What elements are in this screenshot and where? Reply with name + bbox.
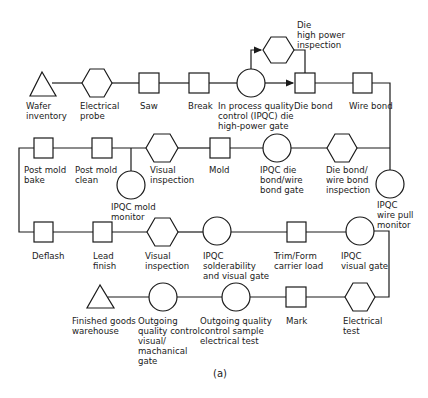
label-die-bond: Die bond xyxy=(294,101,333,111)
label-mark: Mark xyxy=(286,316,307,326)
label-post-mold-bake: Post mold bake xyxy=(24,165,66,185)
label-deflash: Deflash xyxy=(32,251,65,261)
label-lead-finish: Lead finish xyxy=(93,251,116,271)
circle-ipqc-die-gate xyxy=(237,69,265,97)
square-trim-form xyxy=(287,222,306,242)
label-saw: Saw xyxy=(140,101,158,111)
circle-ipqc-mold-monitor xyxy=(117,171,145,199)
hexagon-electrical-test xyxy=(345,283,375,311)
circle-oqc-visual xyxy=(149,283,177,311)
label-trim-form: Trim/Form carrier load xyxy=(274,251,323,271)
square-break xyxy=(189,73,209,93)
square-lead-finish xyxy=(93,222,112,242)
circle-ipqc-die-wire-gate xyxy=(263,134,291,162)
circle-oqc-electrical xyxy=(222,283,250,311)
label-wafer-inventory: Wafer inventory xyxy=(26,101,67,121)
square-saw xyxy=(139,73,159,93)
hexagon-die-high-power xyxy=(263,37,294,63)
square-mark xyxy=(286,287,306,307)
square-deflash xyxy=(34,222,53,242)
label-die-high-power: Die high power inspection xyxy=(297,20,345,50)
label-die-wire-inspection: Die bond/ wire bond inspection xyxy=(326,165,370,195)
square-mold xyxy=(210,138,230,158)
circle-ipqc-wire-pull xyxy=(376,170,404,198)
triangle-wafer-inventory xyxy=(30,72,56,96)
label-visual-inspection-1: Visual inspection xyxy=(150,165,194,185)
square-post-mold-clean xyxy=(92,138,112,158)
label-post-mold-clean: Post mold clean xyxy=(75,165,117,185)
square-post-mold-bake xyxy=(34,138,53,158)
label-ipqc-wire-pull: IPQC wire pull monitor xyxy=(377,200,413,230)
circle-ipqc-solderability xyxy=(203,217,231,245)
label-ipqc-die-wire-gate: IPQC die bond/wire bond gate xyxy=(260,165,304,195)
label-ipqc-die-gate: In process quality control (IPQC) die hi… xyxy=(218,101,294,131)
figure-caption: (a) xyxy=(213,369,227,379)
label-ipqc-mold-monitor: IPQC mold monitor xyxy=(111,202,156,222)
label-ipqc-visual-gate: IPQC visual gate xyxy=(341,251,388,271)
hexagon-visual-inspection-1 xyxy=(146,134,178,162)
square-die-bond xyxy=(295,73,315,93)
label-mold: Mold xyxy=(209,165,230,175)
label-break: Break xyxy=(188,101,213,111)
hexagon-visual-inspection-2 xyxy=(147,218,178,246)
square-wire-bond xyxy=(353,73,372,93)
label-ipqc-solderability: IPQC solderability and visual gate xyxy=(203,251,269,281)
hexagon-die-wire-inspection xyxy=(327,134,357,162)
label-electrical-probe: Electrical probe xyxy=(80,101,120,121)
label-oqc-electrical: Outgoing quality control sample electric… xyxy=(200,316,272,346)
circle-ipqc-visual-gate xyxy=(346,217,374,245)
label-oqc-visual: Outgoing quality control visual/ machani… xyxy=(138,316,200,366)
label-finished-goods: Finished goods warehouse xyxy=(72,316,136,336)
hexagon-electrical-probe xyxy=(82,69,112,97)
label-electrical-test: Electrical test xyxy=(343,316,383,336)
label-visual-inspection-2: Visual inspection xyxy=(145,251,189,271)
label-wire-bond: Wire bond xyxy=(349,101,393,111)
